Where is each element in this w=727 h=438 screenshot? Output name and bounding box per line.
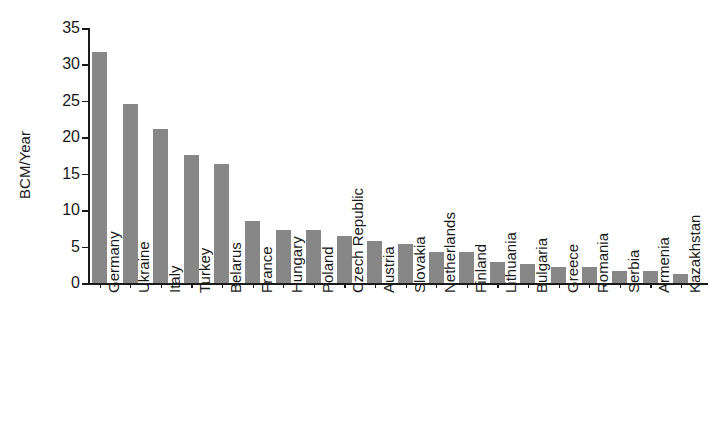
x-tick-mark: [191, 283, 192, 288]
x-tick-label: Belarus: [228, 242, 243, 293]
x-tick-mark: [161, 283, 162, 288]
x-tick-mark: [650, 283, 651, 288]
x-tick-mark: [528, 283, 529, 288]
x-tick-label: Italy: [167, 265, 182, 293]
x-tick-label: Germany: [106, 231, 121, 293]
x-tick-label: Romania: [595, 233, 610, 293]
y-tick-label: 0: [71, 273, 80, 292]
x-tick-mark: [222, 283, 223, 288]
y-tick-mark: [82, 64, 88, 66]
x-tick-label: Armenia: [656, 237, 671, 293]
y-tick-mark: [82, 137, 88, 139]
x-tick-label: Hungary: [289, 236, 304, 293]
y-tick-mark: [82, 283, 88, 285]
bar-chart-figure: BCM/Year 05101520253035 GermanyUkraineIt…: [0, 0, 727, 438]
y-tick-label: 10: [62, 200, 80, 219]
plot-area: 05101520253035: [88, 28, 708, 283]
x-tick-mark: [314, 283, 315, 288]
x-tick-label: Czech Republic: [350, 188, 365, 293]
x-tick-mark: [406, 283, 407, 288]
y-tick-mark: [82, 247, 88, 249]
x-tick-label: Austria: [381, 246, 396, 293]
y-tick-mark: [82, 210, 88, 212]
x-tick-label: France: [259, 246, 274, 293]
x-tick-mark: [344, 283, 345, 288]
x-tick-mark: [559, 283, 560, 288]
x-tick-mark: [620, 283, 621, 288]
x-tick-mark: [253, 283, 254, 288]
y-tick-label: 30: [62, 54, 80, 73]
x-tick-label: Lithuania: [503, 232, 518, 293]
x-tick-mark: [130, 283, 131, 288]
x-tick-label: Kazakhstan: [687, 215, 702, 293]
x-tick-mark: [467, 283, 468, 288]
x-tick-mark: [100, 283, 101, 288]
x-tick-mark: [497, 283, 498, 288]
x-tick-label: Turkey: [197, 248, 212, 293]
y-tick-mark: [82, 28, 88, 30]
x-tick-label: Netherlands: [442, 212, 457, 293]
y-tick-mark: [82, 101, 88, 103]
x-tick-label: Greece: [565, 244, 580, 293]
x-tick-mark: [436, 283, 437, 288]
y-tick-label: 20: [62, 127, 80, 146]
x-tick-label: Ukraine: [136, 241, 151, 293]
x-tick-label: Finland: [473, 244, 488, 293]
x-tick-mark: [589, 283, 590, 288]
x-tick-mark: [283, 283, 284, 288]
bar[interactable]: [153, 129, 168, 283]
x-tick-mark: [681, 283, 682, 288]
y-tick-mark: [82, 174, 88, 176]
y-tick-label: 25: [62, 91, 80, 110]
x-tick-label: Poland: [320, 246, 335, 293]
x-tick-label: Serbia: [626, 250, 641, 293]
y-axis-line: [88, 28, 90, 283]
y-axis-title: BCM/Year: [16, 105, 33, 225]
y-tick-label: 35: [62, 18, 80, 37]
y-tick-label: 5: [71, 237, 80, 256]
x-tick-label: Bulgaria: [534, 238, 549, 293]
y-tick-label: 15: [62, 164, 80, 183]
x-tick-label: Slovakia: [412, 236, 427, 293]
x-tick-mark: [375, 283, 376, 288]
